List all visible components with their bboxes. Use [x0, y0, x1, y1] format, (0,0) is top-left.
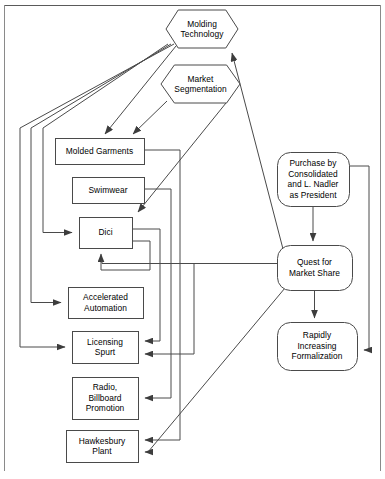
node-shape-molding_technology[interactable]	[166, 10, 238, 48]
edge-quest-to-hawkesbury-plant	[145, 288, 285, 452]
node-shape-licensing_spurt[interactable]	[73, 332, 139, 364]
edge-quest-to-molding-technology	[232, 53, 283, 249]
node-shape-purchase_consolidated[interactable]	[278, 153, 350, 207]
node-shape-swimwear[interactable]	[73, 178, 145, 204]
node-shape-molded_garments[interactable]	[56, 139, 145, 165]
node-shape-radio_billboard[interactable]	[73, 378, 139, 420]
edge-dici-to-licensing-spurt	[132, 229, 160, 341]
node-shape-market_segmentation[interactable]	[161, 65, 240, 103]
edge-quest-to-licensing-spurt	[145, 264, 277, 355]
edge-molded-garments-to-hawkesbury-plant	[144, 150, 180, 440]
node-shape-hawkesbury_plant[interactable]	[67, 431, 139, 463]
node-shape-quest_market_share[interactable]	[278, 246, 353, 291]
edge-layer	[0, 0, 385, 479]
edge-market-segmentation-to-dici	[138, 103, 226, 212]
frame-left-border	[4, 5, 5, 471]
node-shape-rapidly_formalization[interactable]	[278, 323, 358, 371]
edge-market-segmentation-to-molded-garments	[133, 101, 167, 134]
frame-top-border	[4, 5, 381, 6]
node-shape-dici[interactable]	[80, 218, 133, 249]
edge-swimwear-to-radio-billboard	[144, 189, 171, 398]
node-shape-accelerated_automation[interactable]	[69, 288, 144, 319]
frame-right-border	[380, 5, 381, 471]
diagram-canvas: Molding TechnologyMarket SegmentationMol…	[0, 0, 385, 479]
